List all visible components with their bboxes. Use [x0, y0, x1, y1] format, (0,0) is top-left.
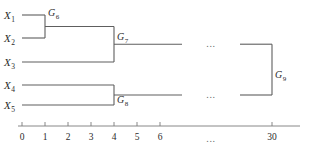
- leaf-label-x1: X1: [3, 9, 15, 24]
- upper-branch-ellipsis: ...: [206, 38, 215, 49]
- lower-branch-ellipsis: ...: [206, 89, 215, 100]
- leaf-label-sub-x2: 2: [11, 38, 15, 47]
- node-label-sub-g7: 7: [125, 37, 129, 45]
- axis-tick-label-1: 1: [43, 132, 48, 142]
- ellipsis-layer: .........: [206, 38, 215, 144]
- leaf-label-sub-x1: 1: [11, 15, 15, 24]
- node-label-base-g9: G: [275, 69, 282, 80]
- node-layer: G6G7G8G9: [45, 7, 287, 108]
- axis-tick-label-5: 5: [135, 132, 140, 142]
- axis-ellipsis: ...: [206, 133, 215, 144]
- leaf-label-x3: X3: [3, 56, 15, 71]
- axis-layer: 012345630: [18, 122, 300, 142]
- node-label-base-g7: G: [117, 31, 124, 42]
- node-label-g7: G7: [117, 31, 129, 45]
- dendrogram-figure: G6G7G8G9 X1X2X3X4X5 ......... 012345630: [0, 0, 316, 155]
- leaf-label-layer: X1X2X3X4X5: [3, 9, 15, 114]
- node-label-sub-g6: 6: [56, 13, 60, 21]
- leaf-label-x5: X5: [3, 99, 15, 114]
- node-label-sub-g8: 8: [125, 100, 129, 108]
- leaf-label-x4: X4: [3, 79, 15, 94]
- axis-tick-label-30: 30: [267, 132, 277, 142]
- axis-tick-label-0: 0: [20, 132, 25, 142]
- leaf-label-sub-x3: 3: [11, 62, 15, 71]
- axis-tick-label-6: 6: [158, 132, 163, 142]
- axis-tick-label-4: 4: [112, 132, 117, 142]
- node-label-g6: G6: [48, 7, 60, 21]
- node-label-g8: G8: [117, 94, 129, 108]
- axis-tick-label-3: 3: [89, 132, 94, 142]
- leaf-label-x2: X2: [3, 32, 15, 47]
- axis-tick-label-2: 2: [66, 132, 71, 142]
- leaf-label-sub-x4: 4: [11, 85, 15, 94]
- node-label-base-g6: G: [48, 7, 55, 18]
- leaf-label-sub-x5: 5: [11, 105, 15, 114]
- node-label-g9: G9: [275, 69, 287, 83]
- branch-layer: [22, 15, 272, 105]
- node-label-base-g8: G: [117, 94, 124, 105]
- dendrogram-canvas: G6G7G8G9 X1X2X3X4X5 ......... 012345630: [0, 0, 316, 155]
- node-label-sub-g9: 9: [283, 75, 287, 83]
